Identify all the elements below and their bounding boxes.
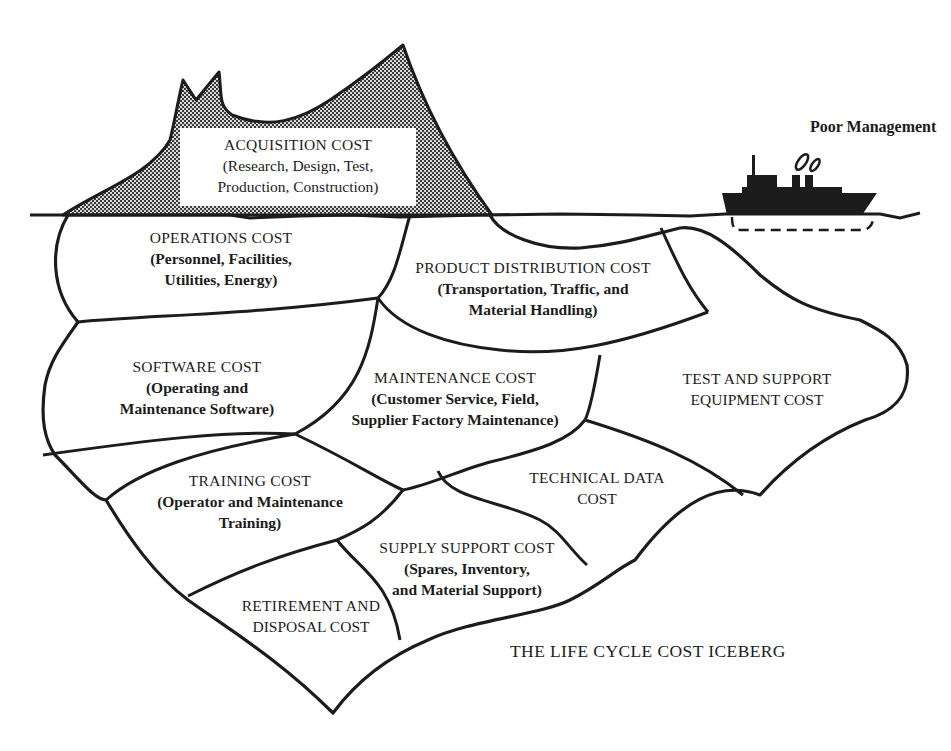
region-detail: Maintenance Software) [120, 398, 274, 419]
region-detail: and Material Support) [379, 579, 555, 600]
region-detail: EQUIPMENT COST [682, 389, 831, 410]
region-title: TRAINING COST [157, 470, 343, 491]
region-title: ACQUISITION COST [217, 134, 378, 155]
region-training-cost: TRAINING COST (Operator and Maintenance … [157, 470, 343, 533]
region-title: TEST AND SUPPORT [682, 368, 831, 389]
region-detail: Production, Construction) [217, 176, 378, 197]
region-detail: Training) [157, 512, 343, 533]
region-detail: (Research, Design, Test, [217, 155, 378, 176]
ship-label: Poor Management [810, 118, 936, 136]
region-detail: (Operating and [120, 377, 274, 398]
region-acquisition-cost: ACQUISITION COST (Research, Design, Test… [217, 134, 378, 197]
region-detail: COST [529, 488, 664, 509]
region-detail: (Spares, Inventory, [379, 558, 555, 579]
region-detail: (Operator and Maintenance [157, 491, 343, 512]
region-detail: (Personnel, Facilities, [150, 248, 293, 269]
region-title: OPERATIONS COST [150, 227, 293, 248]
region-title: PRODUCT DISTRIBUTION COST [415, 257, 650, 278]
region-title: MAINTENANCE COST [351, 367, 558, 388]
region-title: RETIREMENT AND [242, 595, 381, 616]
region-supply-support-cost: SUPPLY SUPPORT COST (Spares, Inventory, … [379, 537, 555, 600]
region-test-support-equipment-cost: TEST AND SUPPORT EQUIPMENT COST [682, 368, 831, 410]
region-maintenance-cost: MAINTENANCE COST (Customer Service, Fiel… [351, 367, 558, 430]
region-detail: Material Handling) [415, 299, 650, 320]
region-detail: Supplier Factory Maintenance) [351, 409, 558, 430]
region-detail: Utilities, Energy) [150, 269, 293, 290]
region-title: SOFTWARE COST [120, 356, 274, 377]
region-title: SUPPLY SUPPORT COST [379, 537, 555, 558]
region-operations-cost: OPERATIONS COST (Personnel, Facilities, … [150, 227, 293, 290]
ship-icon [722, 145, 882, 235]
region-product-distribution-cost: PRODUCT DISTRIBUTION COST (Transportatio… [415, 257, 650, 320]
region-detail: (Transportation, Traffic, and [415, 278, 650, 299]
region-title: TECHNICAL DATA [529, 467, 664, 488]
region-detail: (Customer Service, Field, [351, 388, 558, 409]
region-software-cost: SOFTWARE COST (Operating and Maintenance… [120, 356, 274, 419]
region-detail: DISPOSAL COST [242, 616, 381, 637]
diagram-title: THE LIFE CYCLE COST ICEBERG [510, 641, 786, 662]
region-retirement-disposal-cost: RETIREMENT AND DISPOSAL COST [242, 595, 381, 637]
region-technical-data-cost: TECHNICAL DATA COST [529, 467, 664, 509]
